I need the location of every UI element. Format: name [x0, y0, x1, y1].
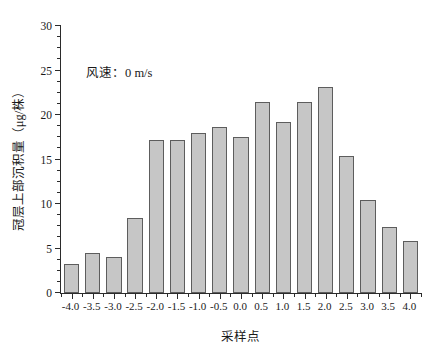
y-axis-minor-tick [57, 192, 61, 193]
bar-chart-figure: 冠层上部沉积量（μg/株） 051015202530 -4.0-3.5-3.0-… [0, 0, 435, 358]
x-axis-minor-tick [167, 293, 168, 297]
y-axis-minor-tick [57, 103, 61, 104]
y-axis-tick-labels: 051015202530 [28, 18, 52, 301]
y-axis-tick-label: 20 [28, 109, 52, 121]
bar [191, 133, 206, 293]
bar [339, 156, 354, 293]
y-axis-minor-tick [57, 47, 61, 48]
bar [318, 87, 333, 293]
y-axis-tick-label: 30 [28, 20, 52, 32]
x-axis-minor-tick [357, 293, 358, 297]
y-axis-tick-label: 15 [28, 154, 52, 166]
x-axis-tick [72, 293, 73, 299]
y-axis-minor-tick [57, 170, 61, 171]
x-axis-tick [177, 293, 178, 299]
x-axis-minor-tick [294, 293, 295, 297]
y-axis-minor-tick [57, 181, 61, 182]
x-axis-minor-tick [230, 293, 231, 297]
x-axis-tick [135, 293, 136, 299]
x-axis-minor-tick [379, 293, 380, 297]
x-axis-tick [368, 293, 369, 299]
y-axis-minor-tick [57, 36, 61, 37]
x-axis-tick [156, 293, 157, 299]
y-axis-minor-tick [57, 136, 61, 137]
y-axis-minor-tick [57, 81, 61, 82]
x-axis-minor-tick [400, 293, 401, 297]
x-axis-tick [199, 293, 200, 299]
y-axis-minor-tick [57, 225, 61, 226]
bar [276, 122, 291, 293]
x-axis-tick [347, 293, 348, 299]
y-axis-minor-tick [57, 281, 61, 282]
x-axis-minor-tick [188, 293, 189, 297]
bar [170, 140, 185, 293]
y-axis-minor-tick [57, 147, 61, 148]
y-axis-tick-label: 10 [28, 198, 52, 210]
bar [85, 253, 100, 293]
y-axis-title: 冠层上部沉积量（μg/株） [6, 8, 28, 308]
bar [212, 127, 227, 293]
x-axis-tick-label: 4.0 [389, 300, 429, 313]
x-axis-minor-tick [125, 293, 126, 297]
x-axis-tick [93, 293, 94, 299]
x-axis-minor-tick [273, 293, 274, 297]
bar [403, 241, 418, 294]
x-axis-tick [410, 293, 411, 299]
bar [127, 218, 142, 293]
y-axis-minor-tick [57, 270, 61, 271]
bar [64, 264, 79, 293]
x-axis-minor-tick [61, 293, 62, 297]
y-axis-minor-tick [57, 125, 61, 126]
x-axis-minor-tick [82, 293, 83, 297]
x-axis-minor-tick [336, 293, 337, 297]
x-axis-minor-tick [421, 293, 422, 297]
x-axis-minor-tick [103, 293, 104, 297]
x-axis-minor-tick [252, 293, 253, 297]
bar [360, 200, 375, 293]
y-axis-tick [55, 25, 61, 26]
y-axis-tick [55, 203, 61, 204]
bar [382, 227, 397, 293]
y-axis-tick [55, 248, 61, 249]
y-axis-tick-label: 0 [28, 287, 52, 299]
y-axis-minor-tick [57, 214, 61, 215]
y-axis-tick [55, 114, 61, 115]
bar [233, 137, 248, 293]
bar [255, 102, 270, 293]
y-axis-minor-tick [57, 92, 61, 93]
y-axis-tick-label: 5 [28, 243, 52, 255]
y-axis-tick [55, 159, 61, 160]
x-axis-tick [114, 293, 115, 299]
wind-speed-annotation: 风速：0 m/s [86, 62, 152, 81]
y-axis-minor-tick [57, 58, 61, 59]
x-axis-tick [262, 293, 263, 299]
y-axis-minor-tick [57, 259, 61, 260]
bar [297, 102, 312, 293]
y-axis-tick [55, 70, 61, 71]
x-axis-tick-labels: -4.0-3.5-3.0-2.5-2.0-1.5-1.0-0.50.00.51.… [60, 300, 420, 316]
x-axis-tick [389, 293, 390, 299]
bar [149, 140, 164, 293]
x-axis-title: 采样点 [60, 326, 420, 345]
x-axis-minor-tick [209, 293, 210, 297]
y-axis-tick-label: 25 [28, 65, 52, 77]
x-axis-minor-tick [315, 293, 316, 297]
x-axis-tick [305, 293, 306, 299]
x-axis-tick [241, 293, 242, 299]
x-axis-minor-tick [146, 293, 147, 297]
bar [106, 257, 121, 293]
y-axis-minor-tick [57, 236, 61, 237]
x-axis-tick [220, 293, 221, 299]
x-axis-tick [326, 293, 327, 299]
x-axis-tick [283, 293, 284, 299]
